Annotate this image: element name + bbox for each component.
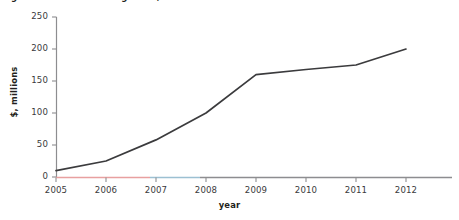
data-series-line (56, 49, 406, 171)
x-tick-label-2009: 2009 (236, 185, 276, 195)
y-tick-label-50: 50 (22, 140, 48, 149)
y-axis-title: $, millions (9, 42, 19, 142)
x-tick-label-2006: 2006 (86, 185, 126, 195)
y-tick-label-250: 250 (22, 12, 48, 21)
x-tick-label-2010: 2010 (286, 185, 326, 195)
y-tick-label-100: 100 (22, 108, 48, 117)
x-tick-label-2012: 2012 (386, 185, 426, 195)
y-tick-label-0: 0 (22, 172, 48, 181)
line-chart-plot-area: 250 200 150 100 50 0 2005 2006 2007 2008… (0, 0, 459, 220)
x-tick-label-2005: 2005 (36, 185, 76, 195)
x-tick-label-2011: 2011 (336, 185, 376, 195)
x-tick-label-2008: 2008 (186, 185, 226, 195)
y-tick-label-150: 150 (22, 76, 48, 85)
x-tick-label-2007: 2007 (136, 185, 176, 195)
chart-figure: Figure: annual revenue growth, 2005–2012 (0, 0, 459, 220)
x-axis-title: year (0, 200, 459, 210)
y-tick-label-200: 200 (22, 44, 48, 53)
y-axis-ticks (52, 17, 57, 177)
